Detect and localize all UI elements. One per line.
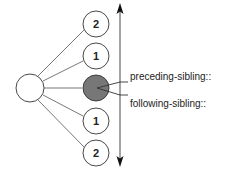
preceding-sibling-node-2: 2 — [83, 11, 109, 37]
node-label: 1 — [93, 50, 99, 62]
edge-root-to-following-2 — [38, 100, 84, 147]
preceding-sibling-node-1: 1 — [83, 43, 109, 69]
edge-root-to-preceding-1 — [43, 61, 83, 81]
edge-root-to-following-1 — [43, 95, 83, 116]
root-node — [16, 74, 44, 102]
following-sibling-label: following-sibling:: — [130, 99, 206, 109]
diagram-canvas: 2 1 1 2 — [0, 0, 227, 172]
node-label: 1 — [93, 115, 99, 127]
following-sibling-node-1: 1 — [83, 108, 109, 134]
context-node — [83, 75, 109, 101]
axis-arrow — [117, 3, 124, 167]
edge-root-to-preceding-2 — [38, 30, 84, 76]
preceding-sibling-label: preceding-sibling:: — [130, 72, 211, 82]
sibling-nodes: 2 1 1 2 — [83, 11, 109, 166]
tree-edges — [38, 30, 84, 147]
node-label: 2 — [93, 147, 99, 159]
following-sibling-node-2: 2 — [83, 140, 109, 166]
node-label: 2 — [93, 18, 99, 30]
